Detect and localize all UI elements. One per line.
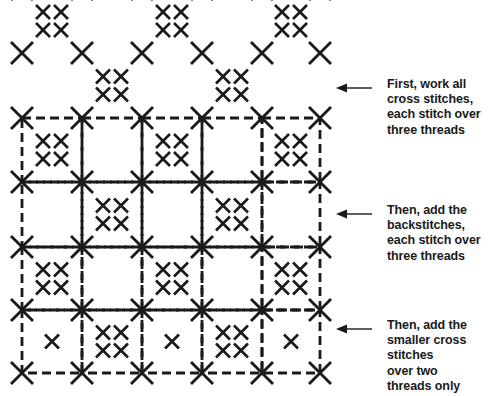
small-cross-cluster: [96, 70, 128, 102]
small-cross-stitch: [293, 281, 307, 295]
arrow-head-icon: [336, 324, 347, 333]
small-cross-stitch: [174, 23, 188, 37]
small-cross-stitch: [156, 5, 170, 19]
small-cross-stitch: [54, 23, 68, 37]
small-cross-stitch: [36, 134, 50, 148]
callout-arrow-backstitches: [336, 209, 372, 218]
backstitch-layer: [22, 118, 320, 373]
small-cross-stitch: [174, 152, 188, 166]
callout-arrow-layer: [336, 83, 372, 333]
small-cross-stitch: [96, 326, 110, 340]
small-cross-cluster: [156, 263, 188, 295]
small-cross-stitch: [36, 152, 50, 166]
small-cross-stitch: [156, 134, 170, 148]
small-cross-cluster: [216, 326, 248, 358]
small-cross-stitch: [96, 88, 110, 102]
small-cross-stitch: [234, 199, 248, 213]
small-cross-stitch: [234, 70, 248, 84]
small-cross-stitch: [293, 5, 307, 19]
small-cross-stitch: [54, 281, 68, 295]
small-cross-stitch: [114, 88, 128, 102]
large-cross-stitch: [131, 42, 153, 64]
small-cross-stitch: [216, 88, 230, 102]
small-cross-cluster: [275, 134, 307, 166]
small-cross-stitch: [36, 23, 50, 37]
small-cross-stitch: [54, 134, 68, 148]
small-cross-stitch: [96, 217, 110, 231]
large-cross-stitch: [251, 42, 273, 64]
small-cross-stitch: [216, 344, 230, 358]
small-cross-cluster: [36, 134, 68, 166]
small-cross-cluster: [216, 199, 248, 231]
small-cross-stitch: [96, 344, 110, 358]
small-cross-stitch: [216, 70, 230, 84]
small-cross-stitch: [96, 199, 110, 213]
small-cross-stitch: [216, 326, 230, 340]
small-cross-stitch: [174, 134, 188, 148]
small-cross-stitch: [156, 152, 170, 166]
small-cross-stitch: [234, 217, 248, 231]
centred-small-cross-stitch: [45, 335, 59, 349]
small-cross-stitch: [156, 263, 170, 277]
small-cross-stitch: [293, 134, 307, 148]
small-cross-stitch: [54, 263, 68, 277]
cross-stitch-layer: [11, 0, 331, 384]
small-cross-cluster: [156, 5, 188, 37]
small-cross-stitch: [174, 263, 188, 277]
arrow-head-icon: [336, 209, 347, 218]
centred-small-cross-stitch: [165, 335, 179, 349]
arrow-head-icon: [336, 83, 347, 92]
small-cross-stitch: [114, 199, 128, 213]
small-cross-stitch: [293, 152, 307, 166]
small-cross-stitch: [234, 326, 248, 340]
centred-small-cross-stitch: [284, 335, 298, 349]
small-cross-stitch: [114, 70, 128, 84]
small-cross-stitch: [36, 5, 50, 19]
small-cross-stitch: [156, 281, 170, 295]
small-cross-cluster: [275, 5, 307, 37]
small-cross-cluster: [156, 134, 188, 166]
small-cross-stitch: [234, 344, 248, 358]
small-cross-stitch: [216, 199, 230, 213]
small-cross-stitch: [114, 344, 128, 358]
small-cross-stitch: [36, 263, 50, 277]
annotation-smaller-cross-stitches: Then, add the smaller cross stitches ove…: [387, 318, 501, 394]
small-cross-stitch: [275, 134, 289, 148]
small-cross-stitch: [275, 23, 289, 37]
small-cross-cluster: [275, 263, 307, 295]
small-cross-stitch: [216, 217, 230, 231]
small-cross-stitch: [54, 5, 68, 19]
small-cross-stitch: [234, 88, 248, 102]
small-cross-stitch: [96, 70, 110, 84]
small-cross-stitch: [275, 281, 289, 295]
small-cross-stitch: [114, 217, 128, 231]
large-cross-stitch: [11, 42, 33, 64]
callout-arrow-smaller-cross-stitches: [336, 324, 372, 333]
large-cross-stitch: [191, 42, 213, 64]
small-cross-stitch: [174, 5, 188, 19]
small-cross-cluster: [96, 199, 128, 231]
small-cross-stitch: [114, 326, 128, 340]
large-cross-stitch: [309, 42, 331, 64]
small-cross-stitch: [275, 5, 289, 19]
small-cross-stitch: [293, 263, 307, 277]
small-cross-stitch: [293, 23, 307, 37]
small-cross-cluster: [96, 326, 128, 358]
small-cross-cluster: [36, 263, 68, 295]
large-cross-stitch: [71, 42, 93, 64]
small-cross-stitch: [275, 152, 289, 166]
small-cross-stitch: [54, 152, 68, 166]
annotation-cross-stitches: First, work all cross stitches, each sti…: [387, 77, 481, 138]
small-cross-stitch: [36, 281, 50, 295]
small-cross-stitch: [174, 281, 188, 295]
small-cross-stitch: [275, 263, 289, 277]
cross-stitch-diagram: First, work all cross stitches, each sti…: [0, 0, 501, 396]
small-cross-cluster: [36, 5, 68, 37]
small-cross-cluster: [216, 70, 248, 102]
annotation-backstitches: Then, add the backstitches, each stitch …: [387, 203, 481, 264]
small-cross-stitch: [156, 23, 170, 37]
callout-arrow-cross-stitches: [336, 83, 372, 92]
